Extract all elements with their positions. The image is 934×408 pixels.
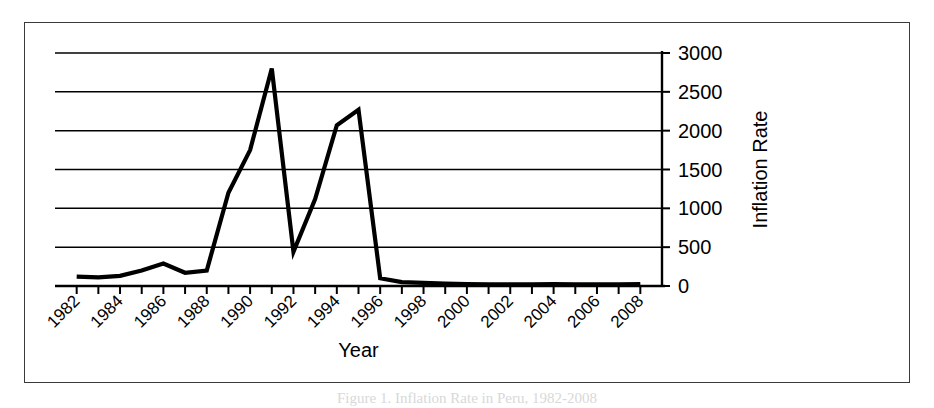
x-axis-tick-label: 1990 [217, 291, 257, 331]
y-axis-tick-label: 0 [678, 275, 689, 297]
x-axis-tick-label: 2004 [520, 291, 560, 331]
figure-caption: Figure 1. Inflation Rate in Peru, 1982-2… [0, 388, 934, 406]
x-axis-tick-label: 1984 [87, 291, 127, 331]
y-axis-tick-label: 3000 [678, 42, 723, 64]
y-axis-tick-label: 1500 [678, 159, 723, 181]
y-axis-tick-label: 2500 [678, 81, 723, 103]
x-axis-tick-label: 1982 [43, 291, 83, 331]
y-axis-tick-label: 500 [678, 236, 711, 258]
x-axis-tick-label: 1998 [390, 291, 430, 331]
x-axis-tick-label: 2008 [607, 291, 647, 331]
inflation-rate-line-chart: 1982198419861988199019921994199619982000… [25, 23, 907, 381]
x-axis-tick-label: 2002 [477, 291, 517, 331]
y-axis-tick-label: 2000 [678, 120, 723, 142]
inflation-rate-line [77, 69, 641, 285]
x-axis-tick-label: 1994 [303, 291, 343, 331]
y-axis-tick-label: 1000 [678, 197, 723, 219]
x-axis-tick-label: 1988 [173, 291, 213, 331]
x-axis-tick-label: 2000 [434, 291, 474, 331]
horizontal-gridlines [55, 53, 662, 286]
x-axis-title: Year [338, 339, 379, 361]
y-axis-title: Inflation Rate [749, 111, 771, 229]
chart-frame-border: 1982198419861988199019921994199619982000… [24, 22, 910, 383]
x-axis-tick-label: 2006 [564, 291, 604, 331]
x-axis-tick-label: 1992 [260, 291, 300, 331]
x-axis-tick-labels: 1982198419861988199019921994199619982000… [43, 291, 647, 331]
figure-container: 1982198419861988199019921994199619982000… [0, 0, 934, 408]
x-axis-tick-label: 1996 [347, 291, 387, 331]
y-axis-tick-labels: 050010001500200025003000 [678, 42, 723, 297]
x-axis-ticks [77, 286, 641, 294]
x-axis-tick-label: 1986 [130, 291, 170, 331]
